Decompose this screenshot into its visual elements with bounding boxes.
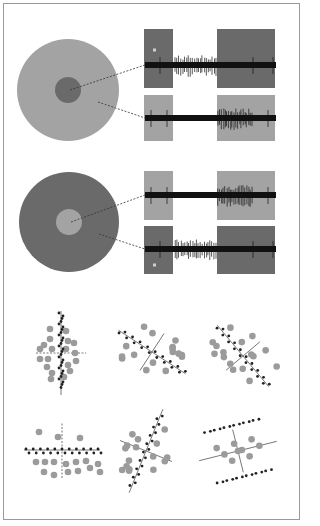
large-dot [135,436,142,443]
small-dot [222,480,225,483]
large-dot [227,324,234,331]
small-dot [139,340,142,343]
small-dot [154,431,157,434]
small-dot [176,365,179,368]
large-dot [249,333,256,340]
small-dot [262,382,265,385]
small-dot [25,448,28,451]
small-dot [82,448,85,451]
large-dot [213,343,220,350]
large-dot [221,354,228,361]
small-dot [235,477,238,480]
large-dot [87,465,94,472]
spike-trace-surround [99,226,276,274]
small-dot [61,383,64,386]
small-dot [145,442,148,445]
small-dot [62,381,65,384]
large-dot [48,376,55,383]
small-dot [139,459,142,462]
small-dot [155,356,158,359]
small-dot [149,434,152,437]
small-dot [221,334,224,337]
trace-baseline [145,62,276,68]
small-dot [216,327,219,330]
small-dot [161,415,164,418]
small-dot [60,320,63,323]
small-dot [60,364,63,367]
scatter-panel-3 [209,324,280,386]
spike-trace-surround [98,95,276,141]
large-dot [213,445,220,452]
large-dot [150,359,157,366]
small-dot [62,337,65,340]
small-dot [68,448,71,451]
large-dot [172,337,179,344]
small-dot [264,470,267,473]
scatter-panel-6 [199,418,277,485]
small-dot [158,423,161,426]
stimulus-box-left [144,29,173,88]
small-dot [135,467,138,470]
small-dot [60,386,63,389]
small-dot [53,448,56,451]
small-dot [61,328,64,331]
large-dot [97,469,104,476]
small-dot [60,353,63,356]
large-dot [227,360,234,367]
large-dot [153,440,160,447]
small-dot [92,452,95,455]
large-dot [67,368,74,375]
small-dot [161,355,164,358]
scatter-panel-2 [118,323,187,374]
large-dot [51,459,58,466]
large-dot [150,453,157,460]
small-dot [58,356,61,359]
large-dot [77,435,84,442]
small-dot [78,452,81,455]
large-dot [73,459,80,466]
large-dot [41,469,48,476]
small-dot [61,317,64,320]
large-dot [71,340,78,347]
small-dot [227,335,230,338]
small-dot [58,323,61,326]
small-dot [62,326,65,329]
small-dot [170,366,173,369]
small-dot [58,334,61,337]
large-dot [131,352,138,359]
small-dot [75,448,78,451]
small-dot [203,431,206,434]
small-dot [231,478,234,481]
small-dot [248,420,251,423]
small-dot [232,424,235,427]
small-dot [250,368,253,371]
large-dot [248,436,255,443]
scatter-panel-5 [119,409,172,492]
scatter-plot-layer [24,311,280,493]
large-dot [246,453,253,460]
small-dot [144,456,147,459]
small-dot [233,347,236,350]
small-dot [148,351,151,354]
large-dot [248,351,255,358]
small-dot [260,471,263,474]
large-dot [229,457,236,464]
large-dot [65,362,72,369]
stimulus-box-right [217,29,275,88]
center-circle [56,209,82,235]
small-dot [142,451,145,454]
small-dot [256,369,259,372]
small-dot [268,383,271,386]
small-dot [209,430,212,433]
large-dot [126,457,133,464]
small-dot [61,350,64,353]
small-dot [61,339,64,342]
large-dot [179,353,186,360]
small-dot [56,452,59,455]
small-dot [35,452,38,455]
small-dot [239,354,242,357]
large-dot [55,434,62,441]
small-dot [163,361,166,364]
large-dot [238,339,245,346]
large-dot [73,358,80,365]
